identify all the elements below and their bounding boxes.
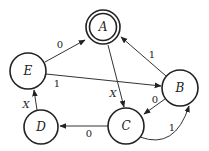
- edge-label-e-to-b: 1: [54, 78, 60, 89]
- state-a-label: A: [98, 20, 108, 34]
- edge-label-b-to-c: 0: [152, 94, 158, 105]
- edge-label-c-to-b: 1: [169, 122, 175, 133]
- state-b: B: [162, 70, 198, 106]
- edge-e-to-b: [46, 74, 161, 86]
- state-c-label: C: [121, 119, 130, 133]
- state-c: C: [108, 108, 144, 144]
- state-e-label: E: [23, 64, 33, 78]
- state-e: E: [10, 53, 46, 89]
- state-b-label: B: [175, 81, 185, 95]
- edge-label-b-to-a: 1: [149, 49, 155, 60]
- edge-label-e-to-a: 0: [57, 39, 63, 50]
- edge-label-c-to-d: 0: [86, 128, 92, 139]
- state-diagram: 0 1 1 X 0 1 0 X A B C D: [0, 0, 209, 151]
- edge-label-d-to-e: X: [21, 99, 30, 110]
- state-d: D: [24, 110, 58, 144]
- edge-e-to-a: [45, 40, 85, 62]
- edge-d-to-e: [34, 90, 37, 110]
- state-a: A: [86, 10, 120, 44]
- edge-b-to-a: [121, 37, 166, 76]
- state-d-label: D: [35, 120, 46, 134]
- edge-label-a-to-c: X: [108, 88, 117, 99]
